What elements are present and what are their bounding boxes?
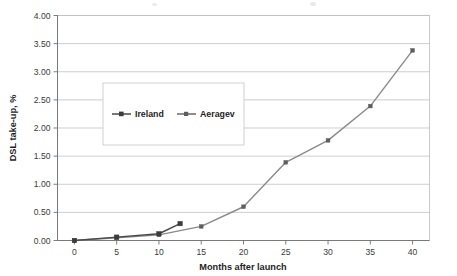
data-point-aeragev [199, 225, 203, 229]
y-tick-label: 2.00 [34, 123, 51, 133]
x-tick-label: 40 [408, 247, 418, 257]
chart-container: 0.000.501.001.502.002.503.003.504.00 051… [0, 0, 457, 276]
y-tick-label: 1.00 [34, 179, 51, 189]
data-point-aeragev [411, 48, 415, 52]
y-tick-label: 1.50 [34, 151, 51, 161]
y-tick-label: 3.50 [34, 39, 51, 49]
data-point-aeragev [368, 104, 372, 108]
legend-marker-aeragev [184, 112, 188, 116]
x-tick-group: 0510152025303540 [72, 241, 418, 257]
y-tick-label: 0.50 [34, 207, 51, 217]
y-axis-title: DSL take-up, % [8, 95, 18, 162]
y-tick-label: 4.00 [34, 11, 51, 21]
x-tick-label: 25 [281, 247, 291, 257]
data-point-aeragev [242, 205, 246, 209]
x-tick-label: 20 [239, 247, 249, 257]
y-tick-label: 3.00 [34, 67, 51, 77]
data-point-ireland [72, 238, 76, 242]
data-point-aeragev [284, 160, 288, 164]
series-line-ireland [74, 224, 180, 241]
scan-speck [310, 2, 316, 6]
y-tick-group: 0.000.501.001.502.002.503.003.504.00 [34, 11, 58, 246]
x-tick-label: 10 [154, 247, 164, 257]
chart-legend: Ireland Aeragev [103, 83, 244, 145]
data-series-group [72, 48, 414, 242]
legend-marker-ireland [119, 112, 124, 117]
data-point-ireland [114, 235, 118, 239]
legend-label-aeragev: Aeragev [200, 109, 235, 119]
data-point-ireland [178, 221, 182, 225]
x-tick-label: 30 [323, 247, 333, 257]
x-tick-label: 5 [114, 247, 119, 257]
legend-label-ireland: Ireland [135, 109, 164, 119]
x-axis-title: Months after launch [199, 262, 287, 272]
data-point-ireland [157, 232, 161, 236]
x-tick-label: 15 [196, 247, 206, 257]
y-tick-label: 0.00 [34, 236, 51, 246]
x-tick-label: 35 [366, 247, 376, 257]
y-tick-label: 2.50 [34, 95, 51, 105]
scan-speck [152, 3, 157, 6]
line-chart: 0.000.501.001.502.002.503.003.504.00 051… [0, 0, 457, 276]
data-point-aeragev [326, 138, 330, 142]
series-line-aeragev [74, 50, 412, 240]
x-tick-label: 0 [72, 247, 77, 257]
